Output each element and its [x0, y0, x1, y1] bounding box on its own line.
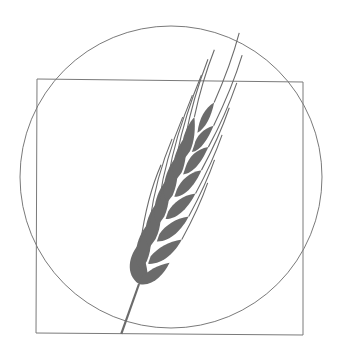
- wheat-ear-icon: [104, 23, 257, 345]
- wheat-stem: [121, 284, 139, 334]
- wheat-diagram: [0, 0, 341, 356]
